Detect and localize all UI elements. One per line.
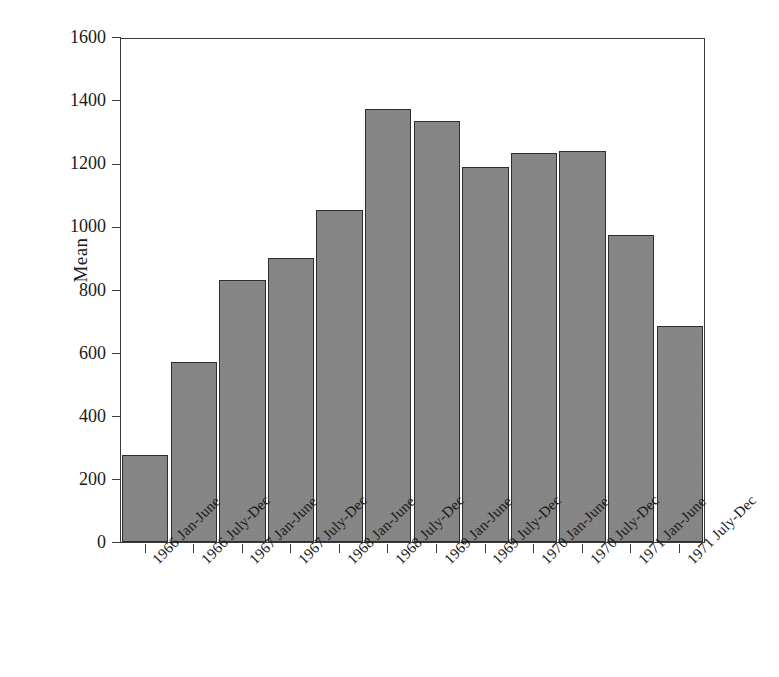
bar-chart: Mean 02004006008001000120014001600 1966 … xyxy=(0,0,779,677)
y-axis-tick-label-wrap: 200 xyxy=(36,470,106,488)
bar xyxy=(122,455,168,542)
x-axis-tick xyxy=(630,544,631,553)
y-axis-tick-label: 1400 xyxy=(44,91,106,109)
x-axis-tick xyxy=(387,544,388,553)
bar xyxy=(316,210,362,542)
y-axis-tick-label-wrap: 0 xyxy=(36,533,106,551)
y-axis-tick-label-wrap: 1600 xyxy=(36,28,106,46)
bar xyxy=(559,151,605,542)
y-axis-tick-label-wrap: 1400 xyxy=(36,91,106,109)
x-axis-tick xyxy=(290,544,291,553)
y-axis-tick xyxy=(112,164,121,165)
x-axis-tick xyxy=(193,544,194,553)
y-axis-tick-label: 1000 xyxy=(44,217,106,235)
x-axis-tick xyxy=(533,544,534,553)
y-axis-tick-label: 1200 xyxy=(44,154,106,172)
x-axis-tick xyxy=(436,544,437,553)
y-axis-tick xyxy=(112,227,121,228)
y-axis-tick-label-wrap: 800 xyxy=(36,281,106,299)
x-axis-tick xyxy=(145,544,146,553)
y-axis-tick-label: 600 xyxy=(44,344,106,362)
y-axis-tick-label: 200 xyxy=(44,470,106,488)
x-axis-tick xyxy=(679,544,680,553)
y-axis-tick xyxy=(112,353,121,354)
bar xyxy=(365,109,411,542)
y-axis-tick xyxy=(112,100,121,101)
y-axis-tick xyxy=(112,290,121,291)
y-axis-tick xyxy=(112,542,121,543)
bars-layer xyxy=(121,39,704,542)
y-axis-tick xyxy=(112,479,121,480)
x-axis-tick xyxy=(582,544,583,553)
bar xyxy=(462,167,508,542)
y-axis-tick-label-wrap: 1000 xyxy=(36,217,106,235)
y-axis-tick-label: 0 xyxy=(44,533,106,551)
y-axis-tick xyxy=(112,37,121,38)
y-axis-tick-label-wrap: 1200 xyxy=(36,154,106,172)
y-axis-tick-label-wrap: 600 xyxy=(36,344,106,362)
y-axis-tick-label: 400 xyxy=(44,407,106,425)
y-axis-tick xyxy=(112,416,121,417)
y-axis-tick-label: 1600 xyxy=(44,28,106,46)
x-axis-tick xyxy=(242,544,243,553)
bar xyxy=(511,153,557,543)
x-axis-tick xyxy=(339,544,340,553)
x-axis-tick xyxy=(485,544,486,553)
y-axis-tick-label-wrap: 400 xyxy=(36,407,106,425)
y-axis-tick-label: 800 xyxy=(44,281,106,299)
bar xyxy=(414,121,460,542)
